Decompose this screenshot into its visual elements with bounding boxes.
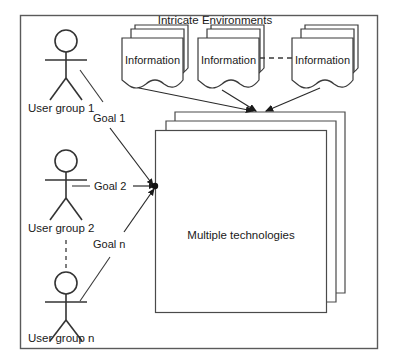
arrow-document-3-to-technology — [266, 88, 320, 111]
user-group-figure-1 — [45, 30, 87, 100]
user-head-icon-1 — [55, 30, 77, 52]
goal-label-1: Goal 1 — [93, 112, 125, 124]
document-stack-2: Information — [198, 25, 264, 88]
technology-box-label: Multiple technologies — [187, 229, 295, 241]
technology-box-front — [156, 131, 327, 313]
diagram-title: Intricate Environments — [158, 14, 273, 26]
goal-1-line-upper — [80, 70, 103, 102]
user-leg-right-1 — [66, 78, 82, 100]
diagram-canvas: Intricate Environments Information Infor… — [0, 0, 397, 363]
document-stack-3: Information — [292, 25, 358, 88]
arrow-document-1-to-technology — [139, 88, 253, 111]
goal-label-2: Goal 2 — [94, 180, 126, 192]
user-head-icon-2 — [55, 150, 77, 172]
document-label-3: Information — [295, 54, 350, 66]
user-head-icon-3 — [55, 272, 77, 294]
user-leg-left-1 — [50, 78, 66, 100]
document-stack-1: Information — [122, 25, 188, 88]
user-leg-right-2 — [66, 198, 82, 220]
user-leg-left-2 — [50, 198, 66, 220]
user-group-figure-2 — [45, 150, 87, 220]
goal-label-n: Goal n — [93, 238, 125, 250]
user-group-figure-3 — [45, 272, 87, 341]
goal-n-arrow-to-technology — [124, 189, 154, 232]
document-label-1: Information — [125, 54, 180, 66]
architecture-diagram: Intricate Environments Information Infor… — [0, 0, 397, 363]
goals-convergence-node — [152, 183, 158, 189]
user-group-label-2: User group 2 — [28, 222, 94, 234]
goal-n-line-lower — [80, 257, 110, 301]
user-group-label-1: User group 1 — [28, 102, 94, 114]
document-label-2: Information — [201, 54, 256, 66]
goal-1-arrow-to-technology — [110, 128, 153, 185]
user-group-label-3: User group n — [28, 332, 94, 344]
